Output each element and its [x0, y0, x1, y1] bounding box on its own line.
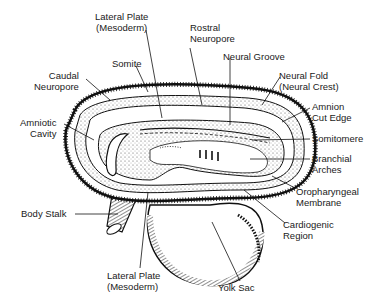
label-neural-fold: Neural Fold (Neural Crest)	[279, 70, 339, 92]
label-rostral-neuropore: Rostral Neuropore	[190, 22, 235, 44]
label-caudal-neuropore: Caudal Neuropore	[34, 70, 79, 92]
embryonic-disc	[65, 84, 315, 201]
embryo-diagram: Lateral Plate (Mesoderm) Rostral Neuropo…	[0, 0, 380, 299]
label-somite: Somite	[112, 58, 142, 69]
label-oropharyngeal-membrane: Oropharyngeal Membrane	[296, 186, 359, 208]
embryo-illustration	[0, 0, 380, 299]
label-amniotic-cavity: Amniotic Cavity	[20, 117, 56, 139]
label-cardiogenic-region: Cardiogenic Region	[283, 219, 334, 241]
label-amnion-cut-edge: Amnion Cut Edge	[312, 101, 352, 123]
label-somitomere: Somitomere	[312, 133, 363, 144]
label-body-stalk: Body Stalk	[21, 208, 66, 219]
label-neural-groove: Neural Groove	[223, 51, 285, 62]
label-yolk-sac: Yolk Sac	[218, 282, 255, 293]
label-lateral-plate-mesoderm-bottom: Lateral Plate (Mesoderm)	[107, 270, 160, 292]
label-branchial-arches: Branchial Arches	[312, 153, 352, 175]
label-lateral-plate-mesoderm-top: Lateral Plate (Mesoderm)	[95, 11, 148, 33]
yolk-sac-shape	[147, 203, 263, 285]
